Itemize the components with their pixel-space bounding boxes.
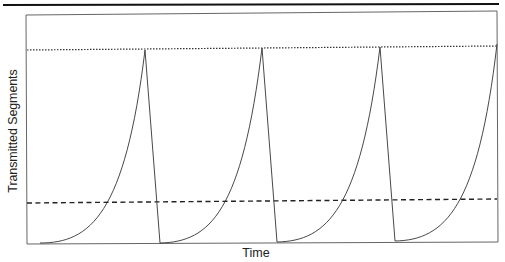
plot-frame: [26, 11, 498, 244]
top-rule: [3, 4, 499, 5]
threshold-dashed-line: [27, 199, 497, 203]
y-axis-label: Transmitted Segments: [6, 69, 20, 192]
transmitted-segments-curve: [40, 44, 497, 243]
x-axis-label: Time: [242, 246, 269, 260]
sawtooth-chart: [0, 0, 505, 262]
